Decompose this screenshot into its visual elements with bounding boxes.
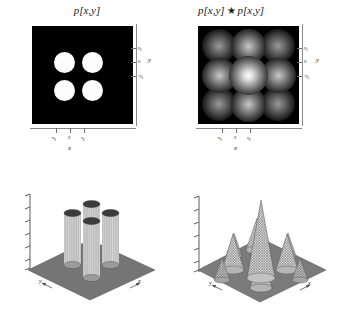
disc-bottom-right xyxy=(82,80,103,101)
disc-top-left xyxy=(54,52,75,73)
star-operator-icon: ★ xyxy=(225,5,238,16)
y-tick-label-0: y0 xyxy=(304,45,307,52)
x-tick-label-0: -x0 xyxy=(51,135,56,142)
surface-cylinders-svg xyxy=(8,178,173,313)
x-axis-line-autocorrelation xyxy=(196,128,302,129)
y-tick-0 xyxy=(297,48,302,49)
y-tick-2 xyxy=(297,76,302,77)
x-tick-label-1: 0 xyxy=(234,135,236,140)
x-tick-2 xyxy=(84,128,85,133)
disc-bottom-left xyxy=(54,80,75,101)
panel-title-function: p[x,y] xyxy=(22,4,152,16)
cylinder-back-right xyxy=(102,209,119,268)
panel-function-surface: y x xyxy=(8,178,173,313)
raster-function xyxy=(32,26,133,124)
x-tick-label-1: 0 xyxy=(68,135,70,140)
title-text-main: p[x,y] xyxy=(74,4,101,16)
x-tick-label-2: x0 xyxy=(81,135,84,142)
y-tick-0 xyxy=(131,48,136,49)
y-tick-1 xyxy=(297,62,302,63)
x-tick-label-0: -x0 xyxy=(217,135,222,142)
y-axis-label-autocorrelation-surface: y xyxy=(209,280,212,286)
cylinder-near-center xyxy=(83,217,100,281)
y-axis-label-function: y xyxy=(148,56,151,64)
y-tick-label-2: -y0 xyxy=(304,73,309,80)
panel-autocorrelation-surface: y x xyxy=(176,178,342,313)
y-axis-label-function-surface: y xyxy=(39,278,42,284)
peak-center xyxy=(229,56,268,95)
title-text-right: p[x,y] xyxy=(238,4,265,16)
x-tick-1 xyxy=(70,128,71,133)
x-tick-2 xyxy=(250,128,251,133)
x-tick-0 xyxy=(56,128,57,133)
y-tick-label-1: 0 xyxy=(304,59,306,64)
panel-autocorrelation-image: p[x,y]★p[x,y] y0 0 -y0 y -x0 xyxy=(190,4,342,154)
figure-root: p[x,y] y0 0 -y0 y -x0 0 x0 x p[x,y]★p[x,… xyxy=(0,0,342,317)
disc-top-right xyxy=(82,52,103,73)
x-axis-label-function: x xyxy=(68,144,71,152)
y-tick-2 xyxy=(131,76,136,77)
x-tick-1 xyxy=(236,128,237,133)
z-axis-autocorrelation-surface xyxy=(194,196,199,272)
x-axis-label-autocorrelation: x xyxy=(234,144,237,152)
x-axis-line-function xyxy=(30,128,136,129)
panel-function-image: p[x,y] y0 0 -y0 y -x0 0 x0 x xyxy=(22,4,152,154)
y-axis-line-autocorrelation xyxy=(302,24,303,126)
title-text-left: p[x,y] xyxy=(198,4,225,16)
z-axis-function-surface xyxy=(25,194,30,270)
x-tick-label-2: x0 xyxy=(247,135,250,142)
surface-cones-svg xyxy=(176,178,342,313)
cylinder-back-left xyxy=(64,209,81,268)
x-axis-label-autocorrelation-surface: x xyxy=(308,280,311,286)
y-tick-label-1: 0 xyxy=(138,59,140,64)
y-tick-label-0: y0 xyxy=(138,45,141,52)
panel-title-autocorrelation: p[x,y]★p[x,y] xyxy=(198,4,342,16)
y-axis-line-function xyxy=(136,24,137,126)
y-tick-label-2: -y0 xyxy=(138,73,143,80)
y-axis-label-autocorrelation: y xyxy=(316,56,319,64)
x-axis-label-function-surface: x xyxy=(138,278,141,284)
x-tick-0 xyxy=(222,128,223,133)
raster-autocorrelation xyxy=(198,26,299,124)
y-tick-1 xyxy=(131,62,136,63)
